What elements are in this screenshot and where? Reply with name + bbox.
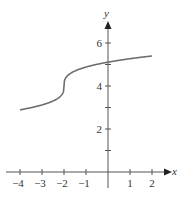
x-axis-label: x (171, 165, 177, 177)
y-axis-arrow-icon (105, 21, 112, 29)
function-graph: −4−3−2−112246 x y (0, 0, 178, 197)
y-axis-label: y (103, 7, 109, 19)
y-tick-label: 4 (97, 80, 103, 92)
x-tick-label: −2 (56, 177, 68, 189)
x-tick-label: −4 (12, 177, 24, 189)
x-tick-label: −1 (78, 177, 90, 189)
x-axis-arrow-icon (164, 169, 172, 176)
y-tick-label: 2 (97, 123, 103, 135)
tick-labels: −4−3−2−112246 (12, 37, 155, 189)
function-curve (20, 56, 152, 110)
y-tick-label: 6 (97, 37, 103, 49)
x-tick-label: 2 (149, 177, 155, 189)
ticks (20, 43, 152, 175)
x-tick-label: 1 (127, 177, 133, 189)
x-tick-label: −3 (34, 177, 46, 189)
axes (6, 21, 172, 188)
